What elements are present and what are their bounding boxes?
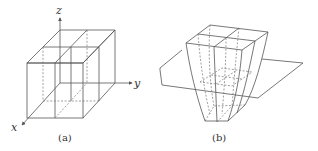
y-axis-label: y — [133, 77, 141, 90]
panel-b: (b) — [160, 25, 303, 143]
plane-edge-left-top — [160, 50, 182, 68]
diagram-canvas: z y x (a) (b) — [0, 0, 318, 151]
x-axis — [22, 83, 60, 125]
top-divider-width — [198, 34, 255, 41]
x-axis-label: x — [11, 121, 18, 134]
edge-front-mid — [214, 47, 217, 122]
edge-front-right — [228, 50, 242, 121]
plane-edge — [160, 59, 303, 98]
edge-front-left — [186, 43, 205, 121]
z-axis-label: z — [55, 4, 62, 17]
caption-a: (a) — [58, 132, 72, 143]
panel-a: z y x (a) — [11, 4, 141, 143]
hidden-center — [222, 38, 226, 114]
caption-b: (b) — [212, 132, 226, 143]
edge-mid-right — [237, 41, 255, 113]
edge-back-right — [245, 32, 268, 105]
hidden-back-left — [209, 25, 214, 106]
